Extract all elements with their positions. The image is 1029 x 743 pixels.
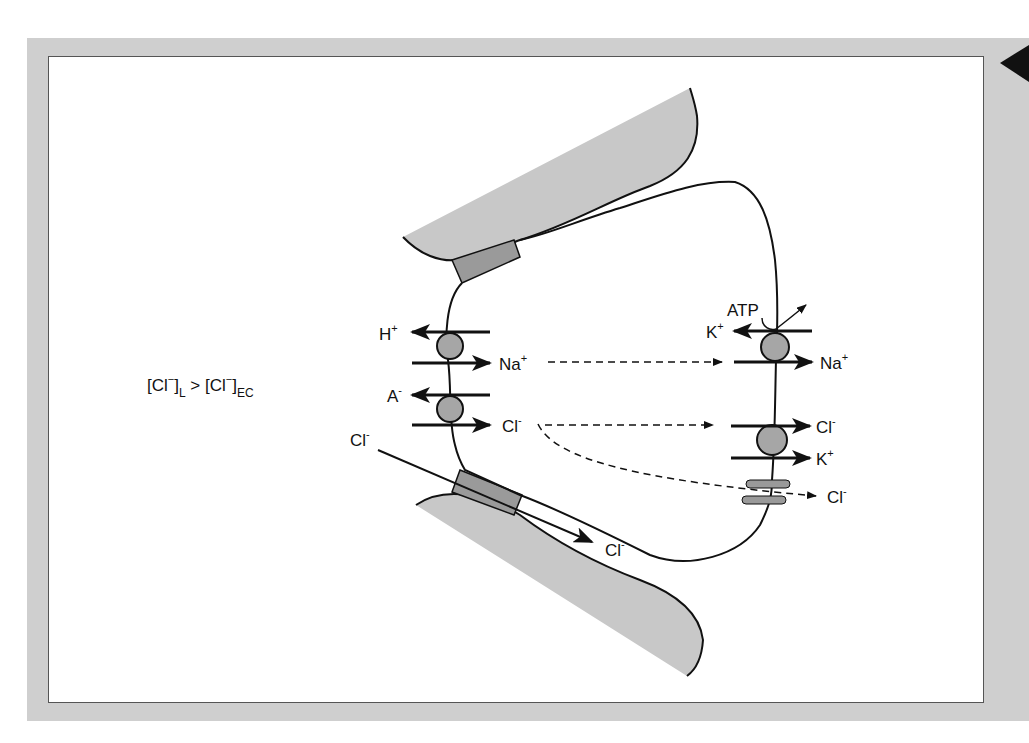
label-atp: ATP — [727, 301, 759, 320]
chloride-gradient-label: [Cl−]L > [Cl−]EC — [147, 373, 254, 400]
label-cl-paracellular-out: Cl- — [605, 538, 625, 560]
anion-exchanger — [437, 396, 463, 422]
label-k-ion-cotransporter: K+ — [816, 447, 834, 469]
lower-neighbor-cell — [416, 494, 703, 676]
label-cl-paracellular-in: Cl- — [350, 428, 370, 450]
nhe-exchanger — [437, 333, 463, 359]
na-k-atpase-pump — [761, 333, 789, 361]
label-k-ion-pump: K+ — [706, 320, 724, 342]
label-a-ion: A- — [387, 384, 402, 406]
label-cl-ion-cotransporter: Cl- — [816, 415, 836, 437]
triangle-marker-icon — [1000, 45, 1029, 82]
upper-neighbor-cell — [403, 88, 697, 260]
kcl-cotransporter — [757, 425, 787, 455]
label-na-ion-pump: Na+ — [820, 351, 848, 373]
label-cl-ion-channel: Cl- — [827, 485, 847, 507]
label-h-ion: H+ — [379, 322, 398, 344]
label-cl-ion-apical: Cl- — [502, 414, 522, 436]
cell-diagram: [Cl−]L > [Cl−]EC H+ Na+ A- Cl- Cl- Cl- A… — [0, 0, 1029, 743]
chloride-channel — [742, 480, 790, 504]
label-na-ion-apical: Na+ — [499, 352, 527, 374]
